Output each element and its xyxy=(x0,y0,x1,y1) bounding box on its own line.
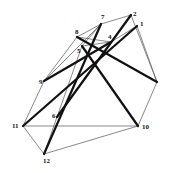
vertex-label-9: 9 xyxy=(39,78,43,86)
thick-edge-5-10 xyxy=(82,46,138,126)
thin-edge-10-12 xyxy=(44,126,138,154)
vertex-label-1: 1 xyxy=(140,20,144,28)
vertex-label-2: 2 xyxy=(133,10,137,18)
thin-edges xyxy=(23,15,157,154)
vertex-label-7: 7 xyxy=(101,13,105,21)
thin-edge-3-10 xyxy=(138,82,157,126)
vertex-label-5: 5 xyxy=(77,47,81,55)
vertex-label-8: 8 xyxy=(75,28,79,36)
vertex-label-10: 10 xyxy=(142,123,150,131)
graph-diagram: 12456789101112 xyxy=(0,0,170,173)
thick-edge-11-1 xyxy=(23,26,137,126)
vertex-label-11: 11 xyxy=(12,122,19,130)
thin-edge-5-7 xyxy=(82,24,101,46)
thick-edges xyxy=(23,15,157,154)
thin-edge-12-11 xyxy=(23,126,44,154)
vertex-label-4: 4 xyxy=(108,33,112,41)
thin-edge-11-9 xyxy=(23,81,44,126)
vertex-label-12: 12 xyxy=(43,157,51,165)
vertex-label-6: 6 xyxy=(52,112,56,120)
